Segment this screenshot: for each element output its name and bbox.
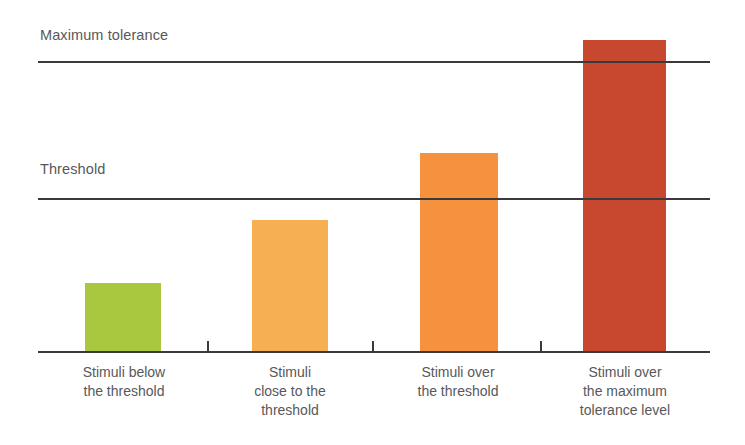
bar: [85, 283, 161, 352]
x-axis-category-labels: Stimuli below the thresholdStimuli close…: [0, 363, 745, 445]
bar: [420, 153, 498, 352]
bar: [252, 220, 328, 352]
x-axis-tick: [372, 341, 374, 352]
reference-line-maximum-tolerance: [38, 61, 710, 63]
x-axis-category-label: Stimuli over the maximum tolerance level: [544, 363, 706, 420]
reference-label-maximum-tolerance: Maximum tolerance: [40, 27, 168, 43]
x-axis-category-label: Stimuli below the threshold: [44, 363, 204, 401]
x-axis-tick: [207, 341, 209, 352]
x-axis-tick: [540, 341, 542, 352]
bar-chart: Maximum tolerance Threshold Stimuli belo…: [0, 0, 745, 445]
reference-label-threshold: Threshold: [40, 161, 105, 177]
reference-line-threshold: [38, 198, 710, 200]
x-axis-line: [38, 351, 710, 353]
x-axis-category-label: Stimuli close to the threshold: [210, 363, 370, 420]
x-axis-category-label: Stimuli over the threshold: [378, 363, 538, 401]
bar: [583, 40, 666, 352]
